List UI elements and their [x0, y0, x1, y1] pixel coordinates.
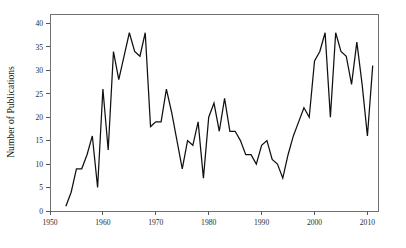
y-tick-label: 5 [39, 183, 43, 192]
y-tick-label: 0 [39, 207, 43, 216]
x-tick-label: 1980 [201, 218, 216, 227]
chart-container: 0510152025303540 19501960197019801990200… [0, 0, 406, 248]
x-axis-ticks: 1950196019701980199020002010 [42, 211, 375, 227]
y-axis-ticks: 0510152025303540 [35, 19, 50, 216]
y-tick-label: 40 [35, 19, 43, 28]
y-tick-label: 15 [35, 136, 43, 145]
data-series-line [66, 33, 373, 207]
y-tick-label: 35 [35, 43, 43, 52]
y-tick-label: 30 [35, 66, 43, 75]
plot-border [50, 14, 378, 211]
x-tick-label: 2010 [360, 218, 375, 227]
y-tick-label: 10 [35, 160, 43, 169]
x-tick-label: 1990 [254, 218, 269, 227]
x-tick-label: 1960 [95, 218, 110, 227]
x-tick-label: 1950 [42, 218, 57, 227]
y-tick-label: 20 [35, 113, 43, 122]
plot-frame [50, 14, 378, 211]
y-axis-title: Number of Publications [5, 66, 16, 158]
data-series-group [66, 33, 373, 207]
y-tick-label: 25 [35, 90, 43, 99]
x-tick-label: 2000 [307, 218, 322, 227]
publications-line-chart: 0510152025303540 19501960197019801990200… [0, 0, 406, 248]
x-tick-label: 1970 [148, 218, 163, 227]
